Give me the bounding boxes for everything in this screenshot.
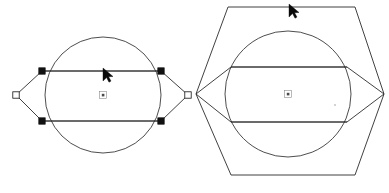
right-figure-inner-lens-polygon[interactable] <box>196 67 384 122</box>
vertex-handle-right[interactable] <box>185 92 191 98</box>
vertex-handle-bottom-left[interactable] <box>39 118 45 124</box>
vertex-handle-left[interactable] <box>13 92 19 98</box>
mouse-pointer-arrow-icon <box>289 4 299 18</box>
vertex-handle-top-left[interactable] <box>39 68 45 74</box>
left-figure[interactable] <box>13 37 191 153</box>
drawing-canvas <box>0 0 389 193</box>
vertex-handle-bottom-right[interactable] <box>158 118 164 124</box>
right-figure-center-marker <box>285 91 292 98</box>
mouse-pointer-arrow-icon <box>103 68 113 82</box>
right-figure[interactable] <box>196 4 384 175</box>
vertex-handle-top-right[interactable] <box>158 68 164 74</box>
right-figure-outer-hexagon[interactable] <box>196 7 384 175</box>
figure-svg-root <box>0 0 389 193</box>
left-figure-center-marker <box>100 92 107 99</box>
faint-dot-marker <box>334 104 336 106</box>
